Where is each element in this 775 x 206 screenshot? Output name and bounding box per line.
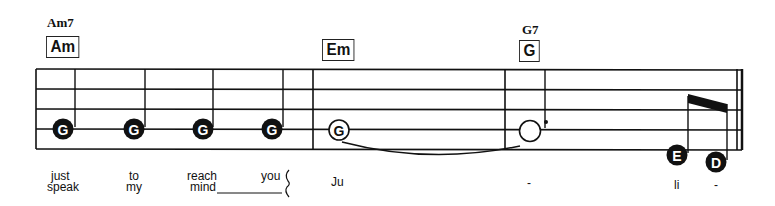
verse-brace: [286, 170, 289, 197]
lyric-hyphen-1: -: [527, 177, 531, 189]
note-g-1: G: [53, 119, 74, 140]
lyric-hyphen-2: -: [714, 179, 718, 191]
svg-text:D: D: [711, 155, 721, 171]
staff-lines: [36, 69, 742, 150]
svg-text:E: E: [672, 148, 681, 164]
lyric-my: my: [126, 181, 142, 193]
note-g-3: G: [193, 119, 214, 140]
svg-text:G: G: [267, 122, 278, 138]
lyric-speak: speak: [47, 181, 79, 193]
note-half-dotted: [520, 121, 541, 142]
note-stems: [75, 69, 727, 160]
lyric-ju: Ju: [331, 176, 344, 188]
lyric-you: you: [261, 170, 280, 182]
note-e: E: [667, 145, 688, 166]
svg-text:G: G: [198, 122, 209, 138]
augmentation-dot: [544, 120, 548, 124]
tie-arc: [342, 142, 520, 155]
svg-text:G: G: [334, 123, 345, 139]
note-g-hollow: G: [329, 120, 349, 140]
note-d: D: [706, 152, 727, 173]
note-g-2: G: [124, 119, 145, 140]
music-staff: G G G G G E D: [0, 0, 775, 206]
lyric-li: li: [674, 179, 679, 191]
svg-text:G: G: [58, 122, 69, 138]
lyric-mind: mind: [190, 181, 216, 193]
note-g-4: G: [262, 119, 283, 140]
svg-text:G: G: [129, 122, 140, 138]
